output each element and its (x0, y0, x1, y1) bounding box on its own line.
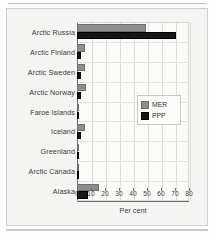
x-tick-mark (133, 188, 134, 191)
x-tick-label: 40 (129, 190, 136, 197)
bar-mer-faroe-islands (77, 104, 79, 111)
bar-mer-iceland (77, 124, 85, 131)
legend-label-mer: MER (152, 101, 167, 108)
x-tick-mark (77, 188, 78, 191)
x-axis-line (77, 201, 189, 202)
top-rule (8, 3, 206, 4)
legend-swatch-ppp-icon (141, 112, 149, 120)
bar-mer-arctic-canada (77, 164, 79, 171)
legend: MER PPP (137, 95, 181, 125)
bar-mer-greenland (77, 144, 79, 151)
x-tick-mark (119, 188, 120, 191)
bar-ppp-arctic-finland (77, 52, 81, 59)
x-tick-label: 20 (101, 190, 108, 197)
chart-frame: Arctic RussiaArctic FinlandArctic Sweden… (6, 8, 208, 226)
x-tick-label: 0 (75, 190, 79, 197)
x-tick-label: 30 (115, 190, 122, 197)
category-label: Greenland (9, 147, 75, 156)
category-label: Arctic Canada (9, 167, 75, 176)
x-tick-label: 60 (157, 190, 164, 197)
bar-ppp-arctic-norway (77, 92, 81, 99)
x-tick-mark (105, 188, 106, 191)
bar-mer-arctic-sweden (77, 64, 85, 71)
bar-ppp-greenland (77, 152, 79, 159)
bar-mer-arctic-finland (77, 44, 85, 51)
x-tick-mark (91, 188, 92, 191)
category-label: Arctic Norway (9, 87, 75, 96)
bar-ppp-iceland (77, 132, 81, 139)
category-axis-labels: Arctic RussiaArctic FinlandArctic Sweden… (9, 22, 75, 201)
bar-ppp-arctic-canada (77, 171, 79, 178)
legend-swatch-mer-icon (141, 101, 149, 109)
figure-container: Arctic RussiaArctic FinlandArctic Sweden… (0, 0, 214, 235)
bar-ppp-arctic-sweden (77, 72, 81, 79)
x-tick-mark (147, 188, 148, 191)
legend-item-mer: MER (141, 99, 177, 110)
x-tick-label: 70 (171, 190, 178, 197)
gridline-vertical (190, 22, 191, 201)
legend-label-ppp: PPP (152, 112, 166, 119)
x-axis-title: Per cent (77, 206, 189, 215)
x-tick-label: 80 (185, 190, 192, 197)
bottom-rule (6, 229, 208, 231)
category-label: Faroe Islands (9, 107, 75, 116)
bar-ppp-arctic-russia (77, 32, 176, 39)
bar-ppp-faroe-islands (77, 112, 79, 119)
category-label: Arctic Sweden (9, 67, 75, 76)
category-label: Alaska (9, 187, 75, 196)
x-tick-mark (175, 188, 176, 191)
x-tick-mark (161, 188, 162, 191)
category-label: Iceland (9, 127, 75, 136)
x-tick-label: 10 (87, 190, 94, 197)
legend-item-ppp: PPP (141, 110, 177, 121)
bar-mer-arctic-norway (77, 84, 86, 91)
category-label: Arctic Russia (9, 27, 75, 36)
bar-mer-arctic-russia (77, 24, 146, 31)
category-label: Arctic Finland (9, 47, 75, 56)
x-tick-mark (189, 188, 190, 191)
x-tick-label: 50 (143, 190, 150, 197)
